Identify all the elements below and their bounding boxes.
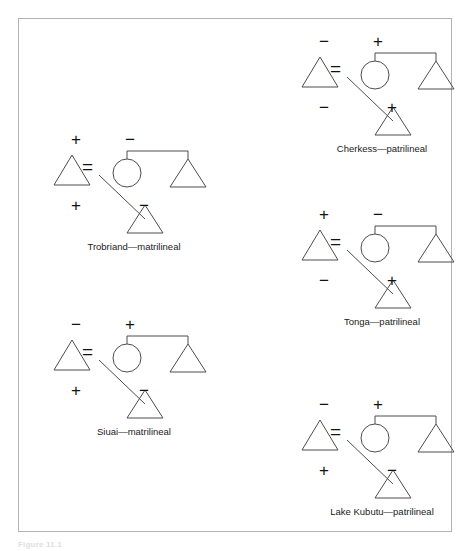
sibling-male-triangle — [418, 61, 454, 89]
kinship-diagram-tonga: = + − − + Tonga—patrilineal — [287, 204, 468, 344]
spouse-female-circle — [113, 159, 141, 187]
sign-top-right: + — [373, 396, 383, 413]
kinship-label-cherkess: Cherkess—patrilineal — [287, 143, 468, 154]
figure-caption: Figure 11.1 — [18, 540, 62, 549]
sign-bottom-right: − — [139, 382, 149, 399]
sign-top-left: − — [71, 316, 81, 333]
sign-top-right: − — [373, 206, 383, 223]
sign-top-left: + — [319, 206, 329, 223]
sign-top-right: − — [125, 131, 135, 148]
kinship-label-lake-kubutu: Lake Kubutu—patrilineal — [287, 506, 468, 517]
kinship-diagram-lake-kubutu: = − + + − Lake Kubutu—patrilineal — [287, 394, 468, 534]
sibling-bracket-line — [127, 336, 188, 344]
marriage-equals-sign: = — [330, 232, 341, 251]
sibling-bracket-line — [375, 226, 436, 234]
kinship-diagram-cherkess: = − + − + Cherkess—patrilineal — [287, 31, 468, 171]
sibling-male-triangle — [418, 424, 454, 452]
spouse-female-circle — [361, 234, 389, 262]
marriage-equals-sign: = — [82, 157, 93, 176]
kinship-diagram-trobriand: = + − + − Trobriand—matrilineal — [39, 129, 229, 269]
sibling-bracket-line — [127, 151, 188, 159]
sign-top-left: − — [319, 396, 329, 413]
sibling-bracket-line — [375, 416, 436, 424]
spouse-female-circle — [113, 344, 141, 372]
spouse-female-circle — [361, 61, 389, 89]
sibling-male-triangle — [418, 234, 454, 262]
page-header-bleed — [230, 0, 410, 5]
sign-top-left: − — [319, 33, 329, 50]
marriage-equals-sign: = — [330, 59, 341, 78]
sibling-male-triangle — [170, 344, 206, 372]
sibling-male-triangle — [170, 159, 206, 187]
spouse-female-circle — [361, 424, 389, 452]
kinship-label-siuai: Siuai—matrilineal — [39, 426, 229, 437]
sign-bottom-right: + — [387, 99, 397, 116]
sign-bottom-right: − — [387, 462, 397, 479]
sign-bottom-right: + — [387, 272, 397, 289]
kinship-label-trobriand: Trobriand—matrilineal — [39, 241, 229, 252]
marriage-equals-sign: = — [330, 422, 341, 441]
sign-bottom-left: − — [319, 99, 329, 116]
sign-top-left: + — [71, 131, 81, 148]
kinship-diagram-siuai: = − + + − Siuai—matrilineal — [39, 314, 229, 454]
sign-bottom-left: + — [319, 462, 329, 479]
sibling-bracket-line — [375, 53, 436, 61]
sign-bottom-right: − — [139, 197, 149, 214]
figure-frame: = + − + − Trobriand—matrilineal = − + − … — [18, 18, 452, 532]
sign-bottom-left: + — [71, 197, 81, 214]
marriage-equals-sign: = — [82, 342, 93, 361]
sign-top-right: + — [373, 33, 383, 50]
kinship-label-tonga: Tonga—patrilineal — [287, 316, 468, 327]
sign-bottom-left: + — [71, 382, 81, 399]
sign-bottom-left: − — [319, 272, 329, 289]
sign-top-right: + — [125, 316, 135, 333]
